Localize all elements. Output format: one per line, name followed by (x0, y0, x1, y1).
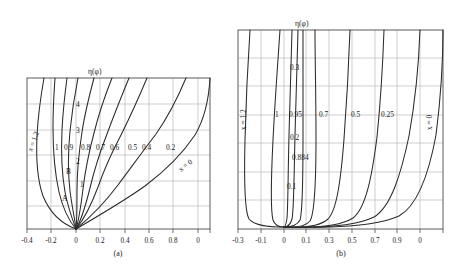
plot-a-caption: (a) (114, 249, 123, 258)
plot-a-mark-4: 4 (76, 100, 80, 109)
plot-b-right-edge-label: x = 0 (425, 114, 434, 130)
plot-b-label-05: 0.5 (351, 110, 361, 119)
plot-b-gridlines (238, 30, 443, 229)
plot-a-curve-label-05: 0.5 (128, 143, 138, 152)
plot-b-label-07: 0.7 (319, 110, 329, 119)
plot-a-xtick-6: 0.8 (169, 237, 178, 245)
plot-a-curves (37, 78, 210, 229)
plot-b-panel: η(φ) 0.3 1 0.95 0.2 0.884 0.1 0.7 0.5 0.… (229, 0, 458, 268)
plot-a-mark-2: 2 (76, 157, 80, 166)
plot-b-xtick-2: 0 (282, 237, 286, 245)
plot-b-left-edge-label: x = 1.2 (239, 109, 248, 130)
plot-a-mark-A: A (62, 194, 68, 203)
plot-a-curve-label-1: 1 (55, 143, 59, 152)
plot-b-xtick-5: 0.5 (348, 237, 357, 245)
plot-a-mark-3: 3 (76, 126, 80, 135)
plot-a-curve-label-08: 0.8 (81, 143, 91, 152)
plot-b-xtick-3: 0.1 (302, 237, 311, 245)
plot-a-panel: η(φ) 1 0.9 0.8 0.7 0.6 0.5 0.4 0.2 x = 1… (0, 0, 229, 268)
plot-b-xtick-6: 0.7 (371, 237, 380, 245)
plot-a-curve-label-02: 0.2 (166, 143, 176, 152)
plot-a-mark-B: B (66, 167, 71, 176)
plot-a-curve-label-07: 0.7 (96, 143, 106, 152)
plot-b-label-095: 0.95 (289, 110, 302, 119)
plot-b-label-0884: 0.884 (292, 153, 309, 162)
plot-b-label-1: 1 (275, 110, 279, 119)
plot-a-xtick-5: 0.6 (145, 237, 154, 245)
plot-a-xtick-7: 0 (196, 237, 200, 245)
plot-a-svg: η(φ) 1 0.9 0.8 0.7 0.6 0.5 0.4 0.2 x = 1… (0, 0, 229, 268)
plot-b-label-01: 0.1 (287, 182, 297, 191)
plot-a-curve-label-09: 0.9 (64, 143, 74, 152)
plot-a-xtick-4: 0.4 (121, 237, 130, 245)
plot-a-left-edge-label: x = 1.2 (25, 130, 41, 153)
plot-a-frame (27, 78, 210, 229)
plot-a-xtick-3: 0.2 (96, 237, 105, 245)
plot-a-xtick-1: -0.2 (45, 237, 57, 245)
plot-b-xtick-1: -0.1 (255, 237, 267, 245)
plot-b-xtick-0: -0.3 (232, 237, 244, 245)
plot-a-xtick-0: -0.4 (21, 237, 33, 245)
plot-a-tickmarks (27, 229, 210, 233)
plot-a-right-edge-label: x = 0 (177, 157, 195, 174)
plot-b-xtick-7: 0.9 (393, 237, 402, 245)
plot-b-svg: η(φ) 0.3 1 0.95 0.2 0.884 0.1 0.7 0.5 0.… (229, 0, 458, 268)
plot-a-mark-1: 1 (80, 180, 84, 189)
plot-a-xtick-2: 0 (74, 237, 78, 245)
plot-b-caption: (b) (336, 249, 346, 258)
plot-b-label-03: 0.3 (290, 63, 300, 72)
plot-b-tickmarks (238, 229, 443, 233)
figure-root: η(φ) 1 0.9 0.8 0.7 0.6 0.5 0.4 0.2 x = 1… (0, 0, 458, 268)
plot-b-xtick-4: 0.3 (325, 237, 334, 245)
plot-a-ylabel: η(φ) (88, 67, 102, 76)
plot-b-frame (238, 30, 443, 229)
plot-b-curves (245, 30, 443, 227)
plot-a-curve-label-06: 0.6 (110, 143, 120, 152)
plot-a-curve-label-04: 0.4 (142, 143, 152, 152)
plot-b-ylabel: η(φ) (295, 19, 309, 28)
plot-b-label-02: 0.2 (290, 133, 300, 142)
plot-a-gridlines (27, 78, 210, 229)
plot-b-label-025: 0.25 (381, 110, 394, 119)
plot-b-xtick-8: 0 (418, 237, 422, 245)
